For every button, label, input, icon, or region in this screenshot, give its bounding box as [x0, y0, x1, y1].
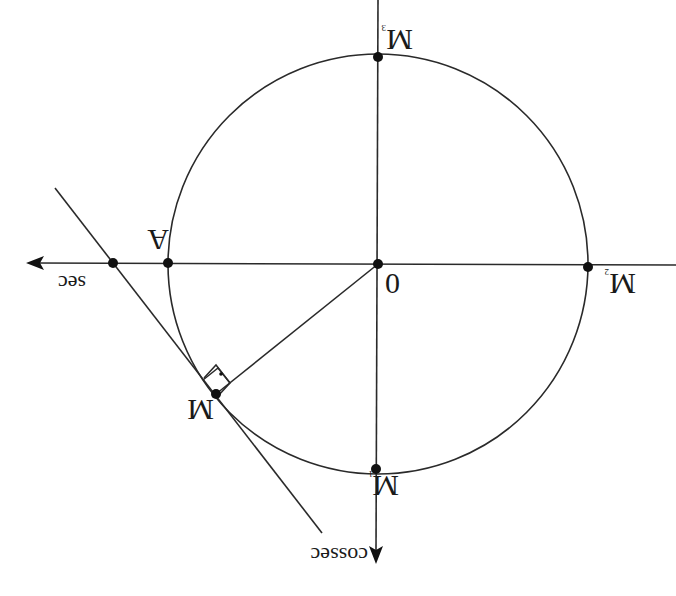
svg-text:3: 3	[381, 23, 386, 33]
label-a: A	[147, 224, 169, 257]
label-m1: M 1	[369, 469, 400, 503]
point-m2	[583, 262, 593, 272]
label-origin: 0	[385, 268, 400, 301]
unit-circle-diagram: 0 A M M 1 M 2 M 3 sec cossec	[0, 0, 676, 596]
right-angle-dot	[219, 372, 223, 376]
label-cossec-axis: cossec	[310, 543, 368, 568]
label-m2: M 2	[605, 267, 637, 301]
radius-om	[216, 264, 378, 394]
svg-text:2: 2	[605, 267, 610, 277]
label-sec-axis: sec	[58, 271, 86, 296]
point-origin	[373, 259, 383, 269]
tangent-line	[55, 188, 322, 533]
point-a	[163, 258, 173, 268]
figure-rotated-group: 0 A M M 1 M 2 M 3 sec cossec	[26, 0, 676, 568]
svg-text:M: M	[609, 268, 636, 301]
label-m: M	[187, 394, 214, 427]
svg-text:M: M	[372, 470, 399, 503]
point-m3	[373, 52, 383, 62]
svg-text:M: M	[386, 24, 413, 57]
sec-axis	[36, 263, 676, 265]
point-sec-intersection	[108, 258, 118, 268]
svg-text:1: 1	[369, 469, 374, 479]
label-m3: M 3	[381, 23, 413, 57]
